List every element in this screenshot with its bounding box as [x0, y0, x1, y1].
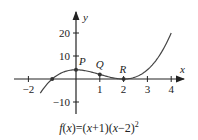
x-tick-label: 4 — [168, 83, 174, 95]
point-label-Q: Q — [96, 58, 104, 70]
function-curve — [40, 33, 171, 93]
caption-mid: )=( — [72, 121, 87, 135]
point-root — [50, 77, 54, 81]
x-tick-label: 1 — [97, 83, 103, 95]
function-caption: f(x)=(x+1)(x−2)2 — [0, 120, 198, 136]
point-R — [122, 77, 126, 81]
point-P — [74, 68, 78, 72]
y-tick-label: 20 — [59, 27, 71, 39]
caption-plus: +1)( — [92, 121, 113, 135]
caption-exponent: 2 — [135, 120, 139, 129]
y-axis-label: y — [82, 11, 88, 23]
y-tick-label: −10 — [53, 96, 71, 108]
point-Q — [98, 72, 102, 76]
caption-minus: −2) — [118, 121, 135, 135]
x-tick-label: −2 — [23, 83, 35, 95]
y-tick-label: 10 — [59, 50, 71, 62]
x-tick-label: 2 — [121, 83, 127, 95]
point-label-P: P — [78, 55, 86, 67]
x-axis-label: x — [179, 63, 185, 75]
curve — [40, 33, 171, 93]
point-label-R: R — [119, 63, 127, 75]
x-tick-label: 3 — [145, 83, 151, 95]
caption-f: f — [59, 121, 62, 135]
function-graph: xy −212342010−10 PQR — [0, 0, 198, 140]
